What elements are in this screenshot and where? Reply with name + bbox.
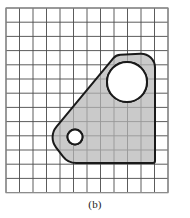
engineering-drawing-canvas [0,0,190,218]
figure-caption: (b) [0,198,190,210]
figure-container: (b) [0,0,190,218]
small-hole [68,130,83,145]
large-hole [107,62,147,102]
